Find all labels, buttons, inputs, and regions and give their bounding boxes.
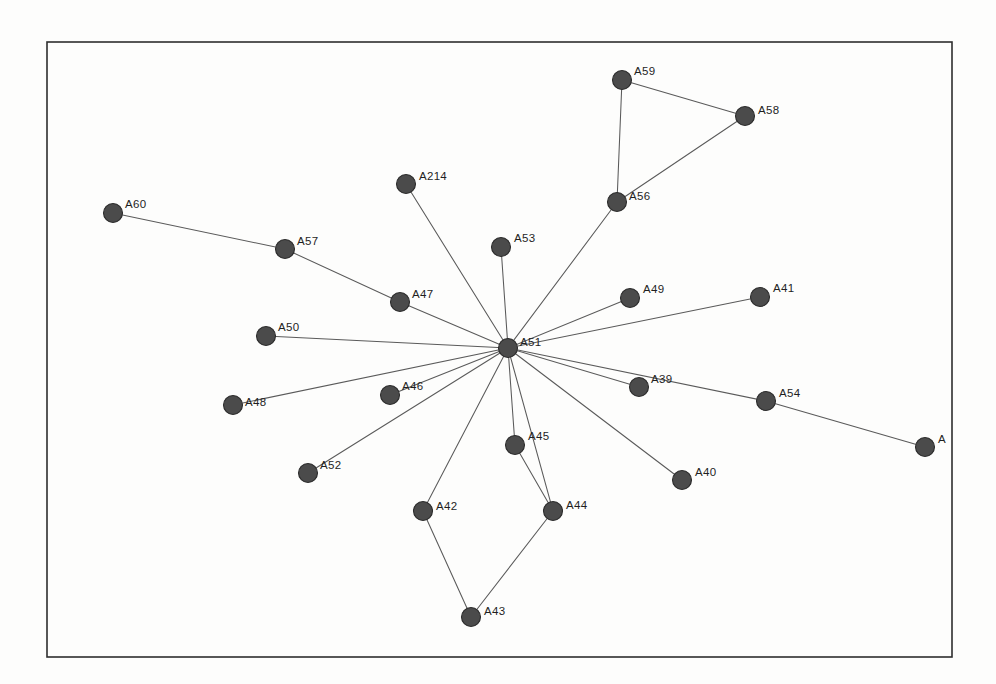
- node-label: A49: [643, 283, 664, 295]
- graph-node-a42[interactable]: A42: [414, 500, 458, 521]
- node-label: A59: [634, 65, 655, 77]
- node-label: A56: [629, 190, 650, 202]
- graph-edge: [501, 247, 508, 348]
- graph-node-a43[interactable]: A43: [462, 605, 506, 627]
- graph-node-a53[interactable]: A53: [492, 232, 536, 257]
- node-circle[interactable]: [462, 608, 481, 627]
- node-label: A42: [436, 500, 457, 512]
- node-circle[interactable]: [916, 438, 935, 457]
- node-circle[interactable]: [414, 502, 433, 521]
- node-circle[interactable]: [257, 327, 276, 346]
- node-label: A41: [773, 282, 794, 294]
- node-label: A58: [758, 104, 779, 116]
- graph-edge: [406, 184, 508, 348]
- graph-edge: [423, 348, 508, 511]
- node-label: A60: [125, 198, 146, 210]
- graph-node-a49[interactable]: A49: [621, 283, 665, 308]
- graph-edge: [622, 80, 745, 116]
- graph-node-a59[interactable]: A59: [613, 65, 656, 90]
- graph-edge: [508, 348, 639, 387]
- node-label: A47: [412, 288, 433, 300]
- node-circle[interactable]: [224, 396, 243, 415]
- node-circle[interactable]: [751, 288, 770, 307]
- graph-edge: [400, 302, 508, 348]
- graph-node-a39[interactable]: A39: [630, 373, 673, 397]
- node-label: A214: [419, 170, 447, 182]
- graph-node-a47[interactable]: A47: [391, 288, 434, 312]
- graph-edge: [113, 213, 285, 249]
- graph-node-a56[interactable]: A56: [608, 190, 651, 212]
- node-label: A45: [528, 430, 549, 442]
- node-circle[interactable]: [630, 378, 649, 397]
- graph-node-a45[interactable]: A45: [506, 430, 550, 455]
- graph-node-a41[interactable]: A41: [751, 282, 795, 307]
- nodes-group: A60A57A47A50A48A46A52A214A53A51A59A58A56…: [104, 65, 947, 627]
- graph-edge: [285, 249, 400, 302]
- graph-node-a48[interactable]: A48: [224, 396, 267, 415]
- graph-edge: [308, 348, 508, 473]
- node-label: A51: [520, 336, 541, 348]
- graph-edge: [266, 336, 508, 348]
- node-label: A50: [278, 321, 299, 333]
- graph-edge: [617, 80, 622, 202]
- node-label: A46: [402, 380, 423, 392]
- node-circle[interactable]: [276, 240, 295, 259]
- graph-node-a54[interactable]: A54: [757, 387, 801, 411]
- node-circle[interactable]: [397, 175, 416, 194]
- graph-node-a44[interactable]: A44: [544, 499, 588, 521]
- node-circle[interactable]: [613, 71, 632, 90]
- node-circle[interactable]: [757, 392, 776, 411]
- edges-group: [113, 80, 925, 617]
- node-label: A39: [651, 373, 672, 385]
- node-circle[interactable]: [608, 193, 627, 212]
- network-graph-figure: A60A57A47A50A48A46A52A214A53A51A59A58A56…: [0, 0, 996, 684]
- graph-node-a51[interactable]: A51: [499, 336, 542, 358]
- node-circle[interactable]: [499, 339, 518, 358]
- node-label: A53: [514, 232, 535, 244]
- graph-edge: [508, 348, 682, 480]
- node-circle[interactable]: [299, 464, 318, 483]
- graph-node-a46[interactable]: A46: [381, 380, 424, 405]
- node-circle[interactable]: [673, 471, 692, 490]
- node-label: A48: [245, 396, 266, 408]
- graph-node-a50[interactable]: A50: [257, 321, 300, 346]
- graph-node-a214[interactable]: A214: [397, 170, 448, 194]
- node-label: A44: [566, 499, 588, 511]
- node-label: A43: [484, 605, 505, 617]
- node-circle[interactable]: [104, 204, 123, 223]
- node-label: A54: [779, 387, 801, 399]
- node-label: A: [938, 433, 946, 445]
- node-circle[interactable]: [391, 293, 410, 312]
- node-label: A52: [320, 459, 341, 471]
- node-circle[interactable]: [506, 436, 525, 455]
- node-circle[interactable]: [381, 386, 400, 405]
- graph-edge: [766, 401, 925, 447]
- graph-node-a55[interactable]: A: [916, 433, 947, 457]
- graph-edge: [471, 511, 553, 617]
- graph-edge: [233, 348, 508, 405]
- graph-canvas: A60A57A47A50A48A46A52A214A53A51A59A58A56…: [0, 0, 996, 684]
- graph-edge: [515, 445, 553, 511]
- graph-edge: [423, 511, 471, 617]
- node-circle[interactable]: [544, 502, 563, 521]
- graph-node-a40[interactable]: A40: [673, 466, 717, 490]
- node-label: A40: [695, 466, 716, 478]
- node-circle[interactable]: [621, 289, 640, 308]
- node-circle[interactable]: [492, 238, 511, 257]
- node-circle[interactable]: [736, 107, 755, 126]
- graph-node-a52[interactable]: A52: [299, 459, 342, 483]
- graph-node-a58[interactable]: A58: [736, 104, 780, 126]
- node-label: A57: [297, 235, 318, 247]
